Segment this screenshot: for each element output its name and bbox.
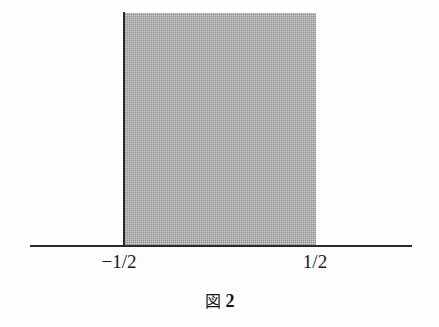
x-axis-line	[30, 245, 412, 247]
figure-caption-number: 2	[221, 291, 235, 311]
figure-caption-kanji: 図	[205, 292, 221, 311]
x-tick-label-one-half: 1/2	[276, 251, 354, 273]
x-tick-label-minus-one-half: −1/2	[80, 251, 158, 273]
figure-page: −1/2 1/2 図2	[0, 0, 439, 327]
shaded-rectangle-region	[124, 13, 316, 246]
figure-caption: 図2	[0, 290, 439, 313]
figure-plot-area: −1/2 1/2	[0, 0, 439, 285]
rectangle-left-edge-line	[123, 12, 125, 247]
